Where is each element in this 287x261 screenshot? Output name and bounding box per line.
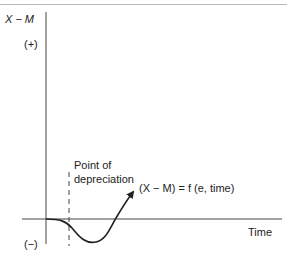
curve-equation-label: (X − M) = f (e, time) (139, 182, 234, 195)
y-positive-label: (+) (24, 38, 38, 51)
y-axis-label: X − M (5, 13, 34, 26)
j-curve (46, 192, 133, 242)
x-axis-label: Time (248, 226, 272, 239)
marker-label-line2: depreciation (74, 173, 134, 186)
j-curve-diagram (0, 0, 287, 261)
y-negative-label: (−) (24, 238, 38, 251)
marker-label-line1: Point of (74, 159, 111, 172)
